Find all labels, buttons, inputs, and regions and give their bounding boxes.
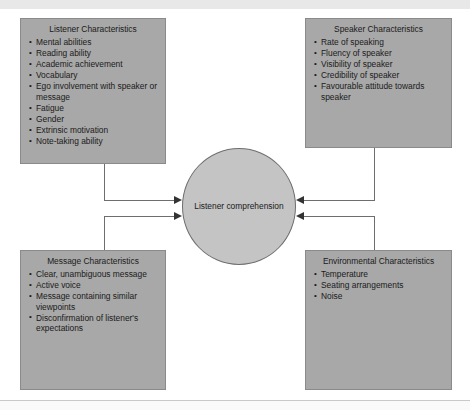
arrowhead-speaker <box>296 196 304 204</box>
box-list-listener: Mental abilities Reading ability Academi… <box>21 37 165 147</box>
connector-speaker-horizontal <box>304 200 375 201</box>
center-node-label: Listener comprehension <box>194 201 283 212</box>
list-item: Credibility of speaker <box>314 70 447 81</box>
list-item: Vocabulary <box>29 70 161 81</box>
connector-message-vertical <box>104 216 105 250</box>
list-item: Clear, unambiguous message <box>29 269 161 280</box>
list-item: Gender <box>29 114 161 125</box>
list-item: Extrinsic motivation <box>29 125 161 136</box>
list-item: Visibility of speaker <box>314 59 447 70</box>
diagram-canvas: Listener Characteristics Mental abilitie… <box>0 0 470 410</box>
box-speaker-characteristics: Speaker Characteristics Rate of speaking… <box>305 18 452 148</box>
connector-speaker-vertical <box>374 148 375 201</box>
list-item: Disconfirmation of listener's expectatio… <box>29 313 161 334</box>
list-item: Mental abilities <box>29 37 161 48</box>
connector-listener-vertical <box>104 164 105 201</box>
arrowhead-message <box>174 212 182 220</box>
connector-environment-horizontal <box>304 216 375 217</box>
box-environmental-characteristics: Environmental Characteristics Temperatur… <box>305 250 452 390</box>
list-item: Academic achievement <box>29 59 161 70</box>
list-item: Temperature <box>314 269 447 280</box>
arrowhead-listener <box>174 196 182 204</box>
center-node-listener-comprehension: Listener comprehension <box>182 148 296 265</box>
connector-message-horizontal <box>104 216 174 217</box>
list-item: Ego involvement with speaker or message <box>29 81 161 102</box>
connector-listener-horizontal <box>104 200 174 201</box>
connector-environment-vertical <box>374 216 375 250</box>
bottom-band <box>0 401 470 410</box>
list-item: Fluency of speaker <box>314 48 447 59</box>
list-item: Noise <box>314 291 447 302</box>
box-title-message: Message Characteristics <box>21 251 165 269</box>
box-list-speaker: Rate of speaking Fluency of speaker Visi… <box>306 37 451 103</box>
list-item: Active voice <box>29 280 161 291</box>
list-item: Seating arrangements <box>314 280 447 291</box>
box-list-environment: Temperature Seating arrangements Noise <box>306 269 451 302</box>
box-title-speaker: Speaker Characteristics <box>306 19 451 37</box>
top-band <box>0 0 470 9</box>
box-list-message: Clear, unambiguous message Active voice … <box>21 269 165 334</box>
list-item: Fatigue <box>29 103 161 114</box>
list-item: Message containing similar viewpoints <box>29 291 161 312</box>
box-message-characteristics: Message Characteristics Clear, unambiguo… <box>20 250 166 390</box>
box-title-listener: Listener Characteristics <box>21 19 165 37</box>
list-item: Favourable attitude towards speaker <box>314 81 447 102</box>
list-item: Rate of speaking <box>314 37 447 48</box>
arrowhead-environment <box>296 212 304 220</box>
list-item: Reading ability <box>29 48 161 59</box>
list-item: Note-taking ability <box>29 136 161 147</box>
box-listener-characteristics: Listener Characteristics Mental abilitie… <box>20 18 166 164</box>
box-title-environment: Environmental Characteristics <box>306 251 451 269</box>
